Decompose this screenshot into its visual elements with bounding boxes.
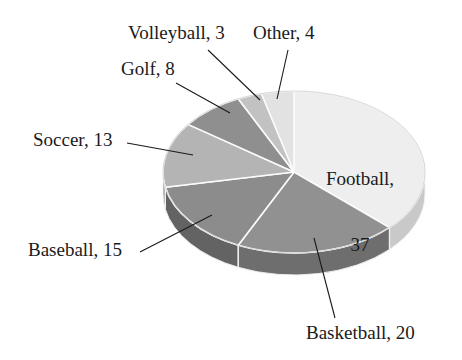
slice-label-other: Other, 4	[253, 22, 315, 44]
slice-label-football: Football, 37	[300, 124, 420, 300]
leader-line-golf	[176, 83, 230, 113]
slice-label-baseball: Baseball, 15	[28, 239, 122, 261]
slice-label-volleyball: Volleyball, 3	[128, 22, 225, 44]
slice-label-football-name: Football,	[300, 168, 420, 190]
slice-label-golf: Golf, 8	[121, 58, 175, 80]
slice-label-basketball: Basketball, 20	[306, 322, 415, 344]
pie-chart-figure: Football, 37 Volleyball, 3 Other, 4 Golf…	[0, 0, 462, 360]
leader-line-volleyball	[208, 50, 260, 100]
slice-label-soccer: Soccer, 13	[33, 129, 112, 151]
slice-label-football-value: 37	[300, 234, 420, 256]
